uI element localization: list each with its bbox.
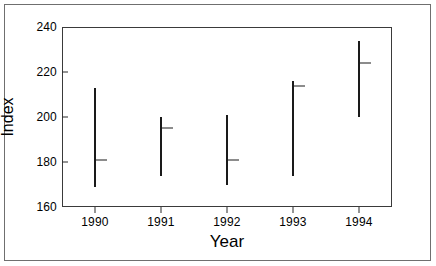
y-axis-tick-label: 180 bbox=[36, 155, 57, 169]
y-axis-tick-label: 160 bbox=[36, 200, 57, 214]
y-axis-title: Index bbox=[0, 97, 17, 136]
y-axis-tick-label: 240 bbox=[36, 20, 57, 34]
x-axis-title: Year bbox=[210, 232, 244, 252]
y-axis-tick-label: 200 bbox=[36, 110, 57, 124]
plot-area-frame bbox=[62, 27, 392, 207]
chart-figure: 160180200220240 19901991199219931994 Ind… bbox=[0, 0, 436, 266]
y-axis-tick-label: 220 bbox=[36, 65, 57, 79]
